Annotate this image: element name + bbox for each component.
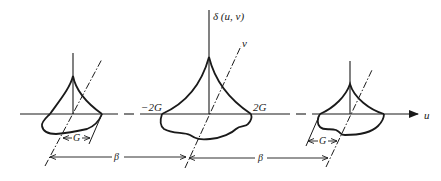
minus-2g-label: −2G (141, 102, 162, 113)
diagram-canvas: δ (u, v) v u −2G 2G G G β β (0, 0, 441, 181)
beta-right-label: β (258, 153, 263, 163)
diagram-svg (0, 0, 441, 181)
delta-label: δ (u, v) (213, 11, 244, 22)
plus-2g-label: 2G (253, 102, 266, 113)
beta-left-label: β (114, 152, 119, 162)
u-axis-label: u (424, 110, 430, 121)
g-right-label: G (319, 136, 326, 146)
v-axis-label: v (242, 38, 247, 49)
left-distribution (42, 53, 102, 166)
beta-dimension (50, 157, 328, 158)
g-left-label: G (73, 133, 80, 143)
center-distribution (161, 10, 252, 168)
